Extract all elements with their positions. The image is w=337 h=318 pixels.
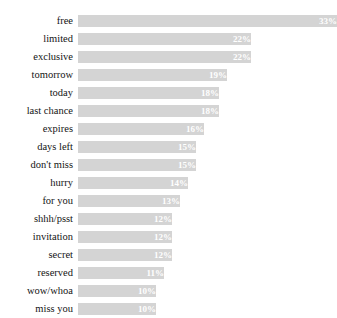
bar-row: tomorrow19% <box>0 66 337 84</box>
bar-track: 12% <box>78 231 337 243</box>
bar-category-label: tomorrow <box>0 66 73 83</box>
bar-row: shhh/psst12% <box>0 210 337 228</box>
bar-value-label: 12% <box>78 213 176 225</box>
bar-value-label: 13% <box>78 195 184 207</box>
bar-track: 14% <box>78 177 337 189</box>
bar-row: last chance18% <box>0 102 337 120</box>
bar-category-label: reserved <box>0 264 73 281</box>
bar-value-label: 11% <box>78 267 168 279</box>
bar-track: 18% <box>78 105 337 117</box>
bar-row: hurry14% <box>0 174 337 192</box>
bar-track: 33% <box>78 15 337 27</box>
bar-category-label: for you <box>0 192 73 209</box>
bar-row: miss you10% <box>0 300 337 318</box>
bar-value-label: 16% <box>78 123 208 135</box>
bar-value-label: 22% <box>78 51 255 63</box>
chart-plot-area: free33%limited22%exclusive22%tomorrow19%… <box>0 12 337 301</box>
bar-value-label: 10% <box>78 285 160 297</box>
bar-track: 12% <box>78 213 337 225</box>
bar-row: free33% <box>0 12 337 30</box>
bar-track: 16% <box>78 123 337 135</box>
bar-category-label: don't miss <box>0 156 73 173</box>
bar-track: 11% <box>78 267 337 279</box>
bar-value-label: 10% <box>78 303 160 315</box>
bar-track: 12% <box>78 249 337 261</box>
bar-value-label: 22% <box>78 33 255 45</box>
bar-value-label: 18% <box>78 87 223 99</box>
bar-track: 15% <box>78 141 337 153</box>
bar-category-label: free <box>0 12 73 29</box>
bar-value-label: 15% <box>78 159 200 171</box>
bar-row: limited22% <box>0 30 337 48</box>
bar-track: 15% <box>78 159 337 171</box>
bar-row: secret12% <box>0 246 337 264</box>
bar-value-label: 18% <box>78 105 223 117</box>
chart-title <box>0 0 337 7</box>
bar-track: 22% <box>78 51 337 63</box>
bar-row: reserved11% <box>0 264 337 282</box>
bar-category-label: secret <box>0 246 73 263</box>
bar-category-label: limited <box>0 30 73 47</box>
bar-category-label: invitation <box>0 228 73 245</box>
bar-row: for you13% <box>0 192 337 210</box>
bar-row: days left15% <box>0 138 337 156</box>
bar-value-label: 19% <box>78 69 231 81</box>
bar-value-label: 14% <box>78 177 192 189</box>
bar-category-label: wow/whoa <box>0 282 73 299</box>
bar-track: 22% <box>78 33 337 45</box>
bar-category-label: exclusive <box>0 48 73 65</box>
bar-category-label: days left <box>0 138 73 155</box>
bar-row: don't miss15% <box>0 156 337 174</box>
bar-category-label: hurry <box>0 174 73 191</box>
bar-category-label: shhh/psst <box>0 210 73 227</box>
bar-track: 10% <box>78 285 337 297</box>
bar-category-label: today <box>0 84 73 101</box>
bar-track: 18% <box>78 87 337 99</box>
bar-value-label: 15% <box>78 141 200 153</box>
bar-track: 19% <box>78 69 337 81</box>
bar-row: expires16% <box>0 120 337 138</box>
bar-category-label: miss you <box>0 300 73 317</box>
bar-track: 13% <box>78 195 337 207</box>
bar-row: today18% <box>0 84 337 102</box>
bar-track: 10% <box>78 303 337 315</box>
bar-value-label: 12% <box>78 249 176 261</box>
bar-value-label: 33% <box>78 15 337 27</box>
bar-row: exclusive22% <box>0 48 337 66</box>
bar-category-label: last chance <box>0 102 73 119</box>
bar-row: invitation12% <box>0 228 337 246</box>
bar-value-label: 12% <box>78 231 176 243</box>
bar-row: wow/whoa10% <box>0 282 337 300</box>
bar-category-label: expires <box>0 120 73 137</box>
